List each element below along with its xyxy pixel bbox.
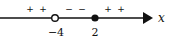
sign-interval-1a: + <box>26 5 34 14</box>
number-line-diagram: + + − − + + −4 2 x <box>0 0 171 40</box>
sign-interval-1b: + <box>39 5 47 14</box>
point-label-2: 2 <box>92 27 99 38</box>
filled-point-icon <box>91 14 98 21</box>
sign-interval-2a: − <box>65 5 73 14</box>
point-label-neg4: −4 <box>48 27 64 38</box>
arrow-head-icon <box>143 12 153 24</box>
sign-interval-3a: + <box>104 5 112 14</box>
sign-interval-3b: + <box>117 5 125 14</box>
sign-interval-2b: − <box>78 5 86 14</box>
open-point-icon <box>52 15 59 22</box>
axis-label-x: x <box>158 12 165 24</box>
